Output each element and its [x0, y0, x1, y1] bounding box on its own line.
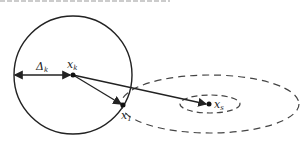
- label-delta-k: Δk: [36, 61, 48, 74]
- point-xs: [207, 102, 212, 107]
- point-xk: [71, 73, 76, 78]
- step-arrow-x1: [73, 75, 121, 104]
- diagram-canvas: Δk xk x1 xs: [0, 0, 308, 163]
- label-x1: x1: [121, 110, 132, 123]
- label-xs: xs: [214, 99, 224, 112]
- label-xk: xk: [67, 59, 77, 72]
- point-x1: [121, 103, 126, 108]
- diagram-svg: [0, 0, 308, 163]
- step-arrow-xs: [73, 75, 206, 104]
